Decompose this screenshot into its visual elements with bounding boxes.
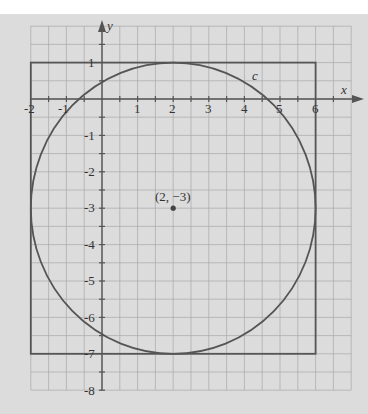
svg-text:-1: -1	[84, 128, 95, 143]
svg-text:-1: -1	[58, 101, 69, 116]
svg-text:-4: -4	[84, 237, 95, 252]
center-point	[171, 206, 176, 211]
svg-text:-5: -5	[84, 273, 95, 288]
svg-text:-2: -2	[24, 101, 35, 116]
coordinate-plane: y x -2 -1 1 2 3 4 5 6 1 -1 -2 -3 -4 -5 -…	[0, 0, 368, 414]
svg-text:1: 1	[134, 101, 141, 116]
svg-text:1: 1	[88, 55, 95, 70]
svg-text:-2: -2	[84, 164, 95, 179]
curve-label: c	[252, 68, 258, 83]
y-axis	[98, 20, 106, 390]
center-label: (2, −3)	[155, 189, 191, 204]
svg-text:2: 2	[169, 101, 176, 116]
svg-text:-7: -7	[84, 346, 95, 361]
svg-text:5: 5	[276, 101, 283, 116]
svg-text:3: 3	[205, 101, 212, 116]
svg-text:4: 4	[241, 101, 248, 116]
svg-text:-3: -3	[84, 200, 95, 215]
svg-text:6: 6	[312, 101, 319, 116]
y-axis-label: y	[105, 18, 113, 33]
svg-text:-6: -6	[84, 310, 95, 325]
svg-text:-8: -8	[84, 383, 95, 398]
x-tick-labels: -2 -1 1 2 3 4 5 6	[24, 101, 319, 116]
grid	[31, 26, 351, 390]
x-axis-label: x	[340, 82, 347, 97]
